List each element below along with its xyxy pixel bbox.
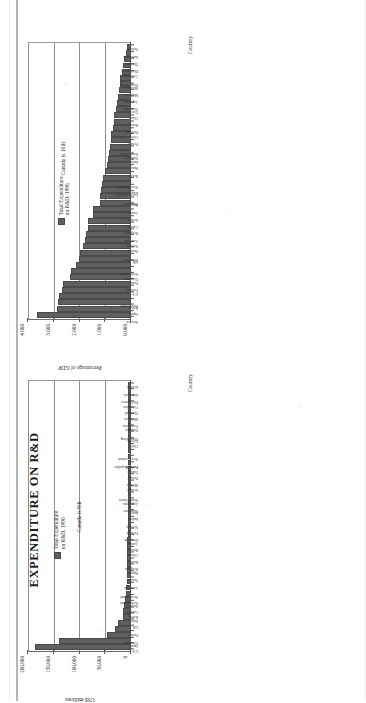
category-axis-title: Country (187, 36, 193, 54)
category-tick-label: Iceland (131, 378, 195, 389)
bar-item (29, 442, 131, 448)
category-label: Taiwan (127, 249, 138, 253)
tick-mark (131, 449, 134, 450)
chart-expenditure-percent-gdp: 0.0001.0002.0003.0004.000Percentage of G… (20, 30, 195, 366)
tick-mark (131, 127, 134, 128)
legend-label: Total Expenditureon R&D, 1996 (53, 511, 67, 550)
bar-item (29, 106, 131, 112)
category-label: Austria (127, 211, 138, 215)
category-label: Czech Republic (114, 192, 138, 196)
legend-swatch (54, 552, 61, 559)
category-label: India (130, 516, 138, 520)
tick-mark (131, 630, 134, 631)
bar-item (29, 62, 131, 68)
bar-item (29, 537, 131, 543)
value-axis-title: US$ millions (65, 697, 95, 703)
category-label: U.S. (131, 649, 138, 653)
bar-item (29, 312, 131, 318)
category-label: Czech Republic (114, 464, 138, 468)
category-label: Canada (127, 609, 138, 613)
plot-area-percent-gdp: Total Expenditureon R&D, 1996Canada is 1… (28, 42, 131, 320)
category-label: Sweden (126, 319, 138, 323)
category-label: Portugal (125, 130, 138, 134)
legend: Total Expenditureon R&D, 1996 (53, 511, 67, 560)
category-label: Finland (127, 530, 138, 534)
bar-item (29, 218, 131, 224)
category-tick-label: UK (131, 622, 195, 627)
bar-item (29, 231, 131, 237)
bar-item (29, 388, 131, 394)
bar-item (29, 448, 131, 454)
bar (88, 225, 131, 231)
category-label: Chile (130, 444, 138, 448)
category-label: U.S. (131, 291, 138, 295)
page-inner-rule (9, 0, 10, 701)
bar-item (29, 436, 131, 442)
category-label: South Africa (119, 498, 138, 502)
tick-mark (131, 383, 134, 384)
tick-mark (131, 45, 134, 46)
bar-item (29, 573, 131, 579)
bar-item (29, 477, 131, 483)
value-tick-label: 0.000 (122, 324, 128, 336)
bar (88, 218, 131, 224)
bar-item (29, 94, 131, 100)
category-label: Italy (131, 619, 138, 623)
bar-item (29, 483, 131, 489)
category-axis-percent-gdp: SwedenJapanKoreaSwitzerlandU.S.FinlandFr… (131, 42, 195, 320)
category-label: Thailand (125, 61, 138, 65)
bar-item (29, 590, 131, 596)
baseline-usd (130, 380, 131, 652)
bar (62, 287, 131, 293)
bar (59, 293, 131, 299)
bar-item (29, 632, 131, 638)
category-label: Chile (130, 134, 138, 138)
tick-mark (131, 576, 134, 577)
bar-item (29, 274, 131, 280)
category-label: Thailand (125, 410, 138, 414)
category-label: Germany (124, 276, 138, 280)
bar-item (29, 579, 131, 585)
bar (59, 638, 131, 644)
category-tick-label: Turkey (131, 40, 195, 51)
bar-item (29, 400, 131, 406)
bar-item (29, 602, 131, 608)
value-axis-percent-gdp: 0.0001.0002.0003.0004.000Percentage of G… (28, 322, 131, 366)
bar-item (29, 150, 131, 156)
category-label: Mexico (127, 482, 138, 486)
legend-swatch (58, 218, 65, 225)
bar-item (29, 268, 131, 274)
bar-item (29, 555, 131, 561)
bar-item (29, 168, 131, 174)
category-label: Taiwan (127, 578, 138, 582)
bar-item (29, 143, 131, 149)
category-label: Norway (126, 243, 138, 247)
bar-item (29, 561, 131, 567)
bar-item (29, 44, 131, 50)
tick-mark (131, 266, 134, 267)
bar-item (29, 131, 131, 137)
category-label: Belgium (125, 231, 138, 235)
bar-item (29, 638, 131, 644)
tick-mark (131, 564, 134, 565)
bar-item (29, 175, 131, 181)
tick-mark (131, 139, 134, 140)
bar-item (29, 137, 131, 143)
bar-item (29, 293, 131, 299)
category-label: South Africa (119, 152, 138, 156)
bar-item (29, 543, 131, 549)
bar-item (29, 87, 131, 93)
bar (115, 626, 131, 632)
bar-item (29, 224, 131, 230)
bar-item (29, 394, 131, 400)
bar-item (29, 608, 131, 614)
tick-mark (131, 297, 134, 298)
category-label: New Zealand (118, 456, 138, 460)
bar-item (29, 281, 131, 287)
bar (93, 206, 131, 212)
category-label: Austria (127, 542, 138, 546)
value-tick-label: 100,000 (71, 656, 77, 673)
category-label: New Zealand (118, 184, 138, 188)
bar-item (29, 50, 131, 56)
category-axis-title: Country (187, 374, 193, 392)
